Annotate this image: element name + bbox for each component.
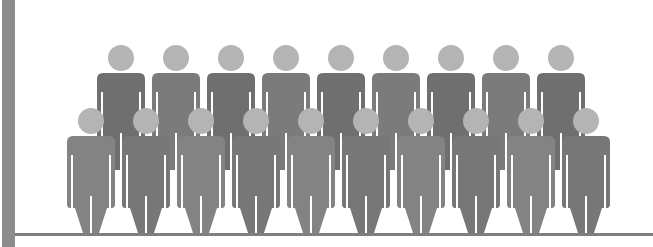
head-icon <box>163 45 189 71</box>
head-icon <box>218 45 244 71</box>
head-icon <box>383 45 409 71</box>
head-icon <box>353 108 379 134</box>
head-icon <box>273 45 299 71</box>
crowd-pictogram <box>0 0 653 247</box>
left-axis-bar <box>2 0 15 247</box>
head-icon <box>298 108 324 134</box>
baseline <box>15 233 653 236</box>
head-icon <box>408 108 434 134</box>
head-icon <box>548 45 574 71</box>
head-icon <box>133 108 159 134</box>
head-icon <box>243 108 269 134</box>
head-icon <box>518 108 544 134</box>
head-icon <box>438 45 464 71</box>
head-icon <box>573 108 599 134</box>
head-icon <box>493 45 519 71</box>
head-icon <box>188 108 214 134</box>
head-icon <box>328 45 354 71</box>
head-icon <box>78 108 104 134</box>
head-icon <box>463 108 489 134</box>
head-icon <box>108 45 134 71</box>
